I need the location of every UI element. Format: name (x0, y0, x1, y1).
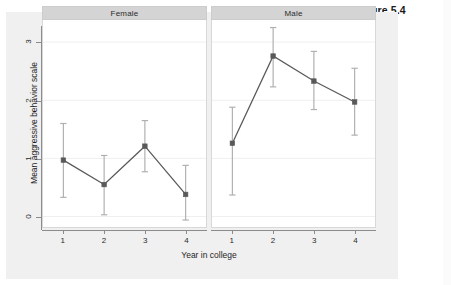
x-tick-mark-female-1 (63, 230, 64, 234)
x-tick-label-female-2: 2 (97, 236, 111, 245)
x-tick-label-female-3: 3 (138, 236, 152, 245)
x-tick-mark-female-4 (186, 230, 187, 234)
series-line-male (232, 56, 354, 143)
y-axis-title: Mean aggressive behavior scale (29, 33, 39, 213)
x-tick-label-male-3: 3 (307, 236, 321, 245)
x-tick-mark-male-2 (273, 230, 274, 234)
x-tick-mark-female-3 (145, 230, 146, 234)
panel-strip-female: Female (42, 6, 207, 20)
x-tick-label-male-2: 2 (266, 236, 280, 245)
data-point-female-year-1[interactable] (61, 158, 66, 163)
data-point-male-year-4[interactable] (352, 100, 357, 105)
x-tick-label-female-1: 1 (56, 236, 70, 245)
x-tick-mark-male-3 (314, 230, 315, 234)
x-tick-label-male-4: 4 (348, 236, 362, 245)
data-point-female-year-3[interactable] (143, 144, 148, 149)
x-axis-line-female (42, 230, 207, 231)
series-line-female (63, 146, 185, 194)
scan-edge-artifact (443, 0, 451, 285)
series-plot-female (43, 20, 206, 227)
x-tick-mark-male-4 (355, 230, 356, 234)
x-axis-title: Year in college (42, 250, 376, 260)
data-point-male-year-1[interactable] (230, 141, 235, 146)
panel-strip-male-label: Male (284, 9, 302, 18)
panel-strip-female-label: Female (111, 9, 139, 18)
panel-plot-area-male (211, 20, 376, 228)
panel-strip-male: Male (211, 6, 376, 20)
x-tick-label-female-4: 4 (179, 236, 193, 245)
series-plot-male (212, 20, 375, 227)
data-point-male-year-3[interactable] (312, 79, 317, 84)
x-tick-mark-female-2 (104, 230, 105, 234)
data-point-male-year-2[interactable] (271, 54, 276, 59)
error-bar-male-year-1 (229, 107, 235, 195)
panel-plot-area-female (42, 20, 207, 228)
data-point-female-year-4[interactable] (183, 192, 188, 197)
x-tick-label-male-1: 1 (225, 236, 239, 245)
y-tick-mark-0 (36, 217, 41, 218)
x-axis-line-male (211, 230, 376, 231)
x-tick-mark-male-1 (232, 230, 233, 234)
data-point-female-year-2[interactable] (102, 182, 107, 187)
y-axis-line (41, 26, 42, 230)
